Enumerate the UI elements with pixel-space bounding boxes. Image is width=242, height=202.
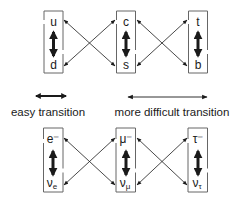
label-c: c: [123, 15, 129, 29]
label-d: d: [50, 58, 57, 72]
label-electron: e⁻: [47, 132, 60, 146]
label-b: b: [195, 58, 202, 72]
label-s: s: [123, 58, 129, 72]
label-tau-neutrino: ντ: [192, 176, 202, 191]
quark-group: u d c s t b: [44, 11, 208, 73]
label-t: t: [196, 15, 200, 29]
lepton-group: e⁻ νe μ⁻ νμ τ⁻ ντ: [44, 128, 208, 192]
legend: easy transition more difficult transitio…: [11, 96, 230, 118]
transition-diagram: u d c s t b easy transition more difficu…: [0, 0, 242, 202]
label-u: u: [50, 15, 57, 29]
label-electron-neutrino: νe: [47, 176, 58, 191]
difficult-transition-label: more difficult transition: [115, 106, 230, 118]
label-muon-neutrino: νμ: [120, 176, 131, 191]
easy-transition-label: easy transition: [11, 106, 85, 118]
label-muon: μ⁻: [120, 132, 133, 146]
label-tau: τ⁻: [193, 132, 204, 146]
